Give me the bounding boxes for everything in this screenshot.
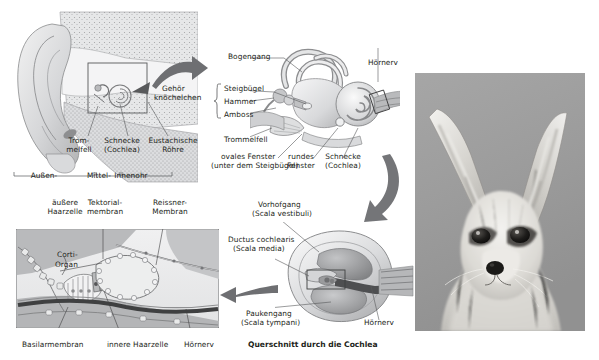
fennec-fox-photo: [415, 73, 585, 331]
ossicles-bracket: [213, 83, 223, 119]
label-hammer: Hammer: [224, 98, 256, 107]
arrow-crosssection-to-corti: [218, 283, 280, 305]
label-hoernerv-1: Hörnerv: [368, 59, 398, 68]
label-tektorialmembran-line2: membran: [80, 208, 130, 217]
label-amboss: Amboss: [224, 111, 253, 120]
label-eustachische-roehre: Eustachische Röhre: [145, 137, 201, 154]
label-scala-vestibuli: (Scala vestibuli): [252, 210, 312, 219]
label-gehoerknoechelchen-line2: knöchelchen: [154, 94, 201, 103]
label-corti-organ-line2: Organ: [55, 261, 78, 270]
label-steigbuegel: Steigbügel: [224, 85, 264, 94]
label-scala-tympani: (Scala tympani): [241, 319, 300, 328]
label-corti-organ-line1: Corti-: [57, 251, 78, 260]
label-rundes-fenster-line2: Fenster: [284, 162, 318, 171]
label-hoernerv-3: Hörnerv: [184, 341, 214, 350]
label-aussenohr: Außen-: [22, 172, 66, 181]
organ-of-corti-illustration: [16, 229, 219, 328]
label-basilarmembran: Basilarmembran: [22, 341, 84, 350]
label-innere-haarzelle: innere Haarzelle: [107, 341, 168, 350]
label-schnecke-cochlea: Schnecke (Cochlea): [99, 137, 145, 154]
cochlea-cross-section-illustration: [275, 222, 415, 327]
label-reissner-membran-line2: Membran: [145, 208, 195, 217]
arrow-innerear-to-crosssection: [348, 152, 404, 226]
label-trommelfell: Trom- melfell: [62, 137, 96, 154]
caption-querschnitt-cochlea: Querschnitt durch die Cochlea: [248, 340, 378, 349]
label-scala-media: (Scala media): [233, 245, 285, 254]
label-bogengang: Bogengang: [228, 53, 271, 62]
label-innenohr: Innenohr: [108, 172, 154, 181]
figure-canvas: Trom- melfell Schnecke (Cochlea) Eustach…: [0, 0, 599, 360]
label-hoernerv-2: Hörnerv: [364, 319, 394, 328]
label-trommelfell-2: Trommelfell: [224, 136, 268, 145]
